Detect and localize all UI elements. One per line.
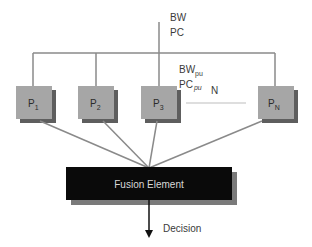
link-pn-fusion (149, 121, 262, 168)
pc-pu-label: PCpu (179, 79, 202, 92)
bw-pu-label: BWpu (179, 64, 203, 78)
pc-label: PC (170, 27, 184, 38)
processor-p1: P1 (16, 86, 56, 123)
link-p1-fusion (40, 121, 149, 168)
fusion-element: Fusion Element (66, 167, 237, 205)
decision-arrow-head (145, 230, 153, 238)
n-label: N (211, 85, 218, 96)
link-p3-fusion (149, 121, 157, 168)
processor-p3: P3 (141, 86, 181, 123)
fusion-label: Fusion Element (114, 179, 184, 190)
link-p2-fusion (103, 121, 149, 168)
processor-pn: PN (258, 86, 298, 123)
fusion-diagram: BW PC BWpu PCpu N P1 P2 P3 PN Fusion Ele… (0, 0, 312, 247)
bw-label: BW (170, 12, 187, 23)
decision-label: Decision (163, 223, 201, 234)
processor-p2: P2 (78, 86, 118, 123)
